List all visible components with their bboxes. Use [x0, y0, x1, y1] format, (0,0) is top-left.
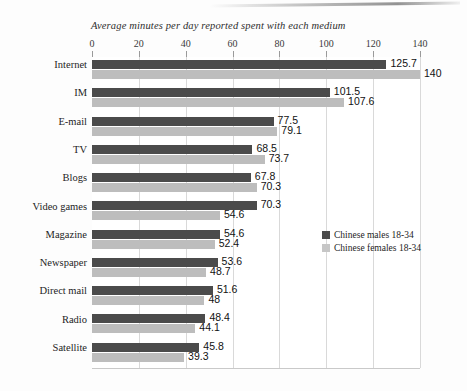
bar-male	[92, 88, 330, 97]
gridline	[420, 57, 421, 368]
bar-male	[92, 145, 252, 154]
bar-value-label: 70.3	[261, 200, 281, 209]
bar-female	[92, 70, 420, 79]
bar-male	[92, 60, 386, 69]
bar-male	[92, 286, 213, 295]
bar-female	[92, 296, 204, 305]
y-axis-label: Newspaper	[4, 257, 87, 268]
chart-title: Average minutes per day reported spent w…	[91, 20, 346, 31]
bar-male	[92, 258, 218, 267]
x-axis-tick-label: 0	[90, 38, 95, 49]
x-axis-tick-label: 120	[366, 38, 381, 49]
bar-value-label: 44.1	[199, 323, 219, 332]
bar-value-label: 52.4	[219, 239, 239, 248]
plot-area: 125.7140101.5107.677.579.168.573.767.870…	[92, 57, 420, 368]
bar-female	[92, 98, 344, 107]
bar-value-label: 73.7	[269, 154, 289, 163]
legend-label-male: Chinese males 18-34	[334, 230, 414, 240]
x-axis-tick-label: 20	[134, 38, 144, 49]
bar-value-label: 54.6	[224, 210, 244, 219]
y-axis-label: Radio	[4, 314, 87, 325]
bar-chart: Average minutes per day reported spent w…	[0, 0, 467, 391]
bar-female	[92, 155, 265, 164]
y-axis-label: Internet	[4, 59, 87, 70]
bar-value-label: 107.6	[348, 97, 374, 106]
x-axis-tick-label: 100	[319, 38, 334, 49]
legend-swatch-icon-female	[322, 244, 330, 252]
x-axis-tick-label: 60	[228, 38, 238, 49]
x-axis-tick-label: 140	[413, 38, 428, 49]
bar-male	[92, 117, 274, 126]
y-axis-category-labels: InternetIME-mailTVBlogsVideo gamesMagazi…	[0, 57, 87, 368]
legend-item-male[interactable]: Chinese males 18-34	[322, 228, 421, 241]
bar-female	[92, 268, 206, 277]
bar-value-label: 79.1	[281, 126, 301, 135]
y-axis-label: E-mail	[4, 116, 87, 127]
y-axis-label: Blogs	[4, 172, 87, 183]
bar-value-label: 48.7	[210, 267, 230, 276]
bar-value-label: 70.3	[261, 182, 281, 191]
bar-female	[92, 240, 215, 249]
bar-female	[92, 127, 277, 136]
bar-male	[92, 314, 205, 323]
bar-male	[92, 173, 251, 182]
x-axis-tick-label: 80	[274, 38, 284, 49]
bar-female	[92, 183, 257, 192]
plot-bottom-border	[92, 368, 420, 369]
y-axis-label: Magazine	[4, 229, 87, 240]
y-axis-label: IM	[4, 87, 87, 98]
chart-legend: Chinese males 18-34 Chinese females 18-3…	[322, 228, 421, 254]
bar-female	[92, 211, 220, 220]
bar-female	[92, 353, 184, 362]
x-axis-tick-label: 40	[181, 38, 191, 49]
y-axis-label: Direct mail	[4, 285, 87, 296]
y-axis-label: TV	[4, 144, 87, 155]
scan-artifact	[210, 1, 460, 7]
bar-value-label: 39.3	[188, 352, 208, 361]
bar-female	[92, 324, 195, 333]
bar-male	[92, 343, 199, 352]
legend-label-female: Chinese females 18-34	[334, 243, 421, 253]
legend-item-female[interactable]: Chinese females 18-34	[322, 241, 421, 254]
legend-swatch-icon-male	[322, 231, 330, 239]
bar-value-label: 48	[208, 295, 220, 304]
y-axis-label: Satellite	[4, 342, 87, 353]
y-axis-label: Video games	[4, 201, 87, 212]
bar-value-label: 140	[424, 69, 442, 78]
bar-male	[92, 230, 220, 239]
bar-value-label: 125.7	[390, 59, 416, 68]
